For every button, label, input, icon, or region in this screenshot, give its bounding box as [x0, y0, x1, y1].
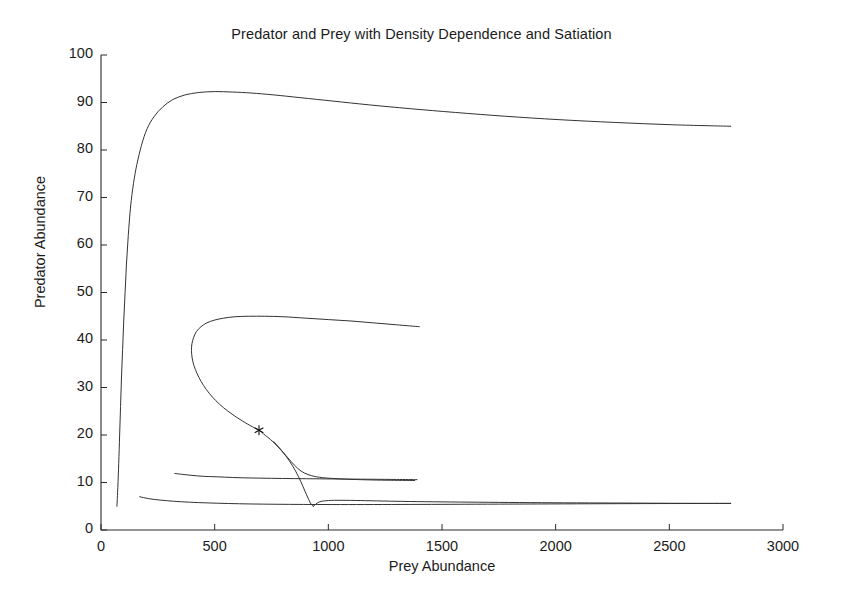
x-tick-label: 2000 [516, 538, 596, 554]
y-tick-label: 70 [47, 188, 93, 204]
equilibrium-marker-icon [255, 425, 264, 435]
annotation-markers [255, 425, 264, 435]
chart-figure: Predator and Prey with Density Dependenc… [0, 0, 843, 600]
x-tick-label: 1500 [402, 538, 482, 554]
y-tick-label: 50 [47, 283, 93, 299]
series-mid-lower-trajectory [175, 473, 417, 479]
x-tick-label: 0 [61, 538, 141, 554]
series-upper-lower-branch [274, 442, 415, 481]
y-tick-label: 90 [47, 93, 93, 109]
y-tick-label: 80 [47, 140, 93, 156]
x-tick-label: 3000 [743, 538, 823, 554]
x-tick-label: 1000 [288, 538, 368, 554]
y-tick-label: 20 [47, 425, 93, 441]
y-tick-label: 30 [47, 378, 93, 394]
y-tick-label: 100 [47, 45, 93, 61]
axis-ticks [101, 55, 783, 530]
x-tick-label: 2500 [629, 538, 709, 554]
y-tick-label: 40 [47, 330, 93, 346]
y-tick-label: 60 [47, 235, 93, 251]
plot-area [0, 0, 843, 600]
series-lower-right-branch [313, 500, 730, 506]
axes-spines [101, 55, 783, 530]
y-tick-label: 10 [47, 473, 93, 489]
y-tick-label: 0 [47, 520, 93, 536]
series-outer-trajectory [117, 92, 731, 507]
data-series-group [117, 92, 731, 507]
x-tick-label: 500 [175, 538, 255, 554]
series-inner-spiral-trajectory [191, 316, 419, 506]
